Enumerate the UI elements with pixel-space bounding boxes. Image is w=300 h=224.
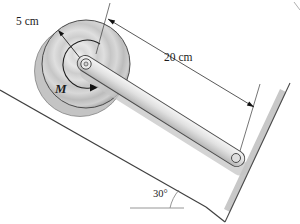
board-bottom-corner-edge	[206, 207, 225, 222]
angle-arc	[170, 190, 179, 208]
angle-annotation: 30°	[130, 188, 184, 208]
rod-end-pin	[232, 154, 241, 163]
moment-label: M	[54, 81, 67, 96]
mechanics-diagram-canvas: 5 cm M 20 cm 30°	[0, 0, 300, 224]
rod	[74, 52, 251, 178]
rod-length-label: 20 cm	[164, 51, 192, 63]
center-pin-inner	[84, 62, 88, 66]
dimension-arrowhead-right-icon	[247, 101, 254, 107]
disk-radius-label: 5 cm	[16, 15, 39, 27]
incline-angle-label: 30°	[153, 188, 168, 199]
figure-stage: 5 cm M 20 cm 30°	[0, 0, 300, 224]
corner-mark	[294, 2, 300, 10]
dimension-arrowhead-left-icon	[108, 19, 115, 25]
